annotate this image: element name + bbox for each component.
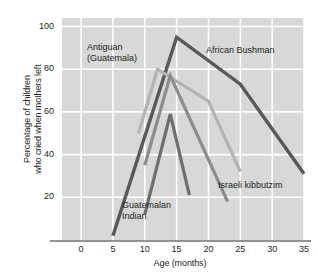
series-annotation-line1: Antiguan [87, 42, 137, 53]
y-axis-title-line1: Percentage of children [22, 39, 33, 199]
chart-figure: 20406080100 05101520253035 Antiguan(Guat… [0, 0, 318, 275]
x-tick-label: 0 [71, 244, 91, 254]
x-tick-label: 10 [135, 244, 155, 254]
x-tick-label: 30 [262, 244, 282, 254]
x-tick-label: 25 [230, 244, 250, 254]
x-tick-label: 5 [103, 244, 123, 254]
y-axis-title: Percentage of children who cried when mo… [22, 39, 44, 199]
series-annotation-line1: African Bushman [206, 45, 275, 56]
series-annotation: Antiguan(Guatemala) [87, 42, 137, 64]
series-annotation: GuatemalanIndian [122, 200, 171, 222]
series-annotation: African Bushman [206, 45, 275, 56]
series-annotation-line1: Israeli kibbutzim [218, 180, 283, 191]
series-annotation-line2: (Guatemala) [87, 53, 137, 64]
x-tick-label: 15 [167, 244, 187, 254]
x-axis-title: Age (months) [100, 258, 260, 268]
x-tick-label: 35 [294, 244, 314, 254]
y-tick-label: 100 [30, 21, 54, 31]
y-axis-title-line2: who cried when mothers left [33, 39, 44, 199]
series-annotation: Israeli kibbutzim [218, 180, 283, 191]
x-tick-label: 20 [198, 244, 218, 254]
line-chart [0, 0, 318, 275]
series-annotation-line1: Guatemalan [122, 200, 171, 211]
series-annotation-line2: Indian [122, 211, 171, 222]
